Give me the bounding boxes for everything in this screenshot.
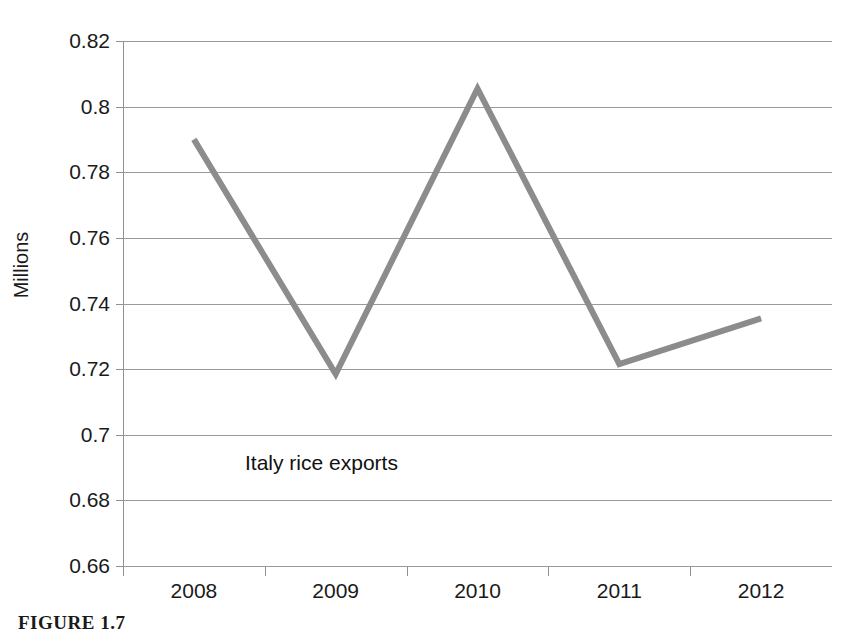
x-axis-tick-label: 2012 [690,580,832,601]
x-axis-tick [123,567,124,576]
gridline [123,566,832,567]
x-axis-tick-label: 2009 [265,580,407,601]
y-axis-title: Millions [11,205,31,325]
y-axis-tick-label: 0.72 [5,358,110,379]
figure-container: 0.820.80.780.760.740.720.70.680.66 20082… [0,0,846,630]
x-axis-tick [265,567,266,576]
x-axis-tick-label: 2008 [123,580,265,601]
data-line-series [123,41,832,566]
series-polyline-italy-rice-exports [194,89,761,374]
x-axis-tick [690,567,691,576]
y-axis-tick-label: 0.66 [5,555,110,576]
y-axis-tick-label: 0.68 [5,489,110,510]
series-annotation-label: Italy rice exports [245,452,398,473]
y-axis-tick-label: 0.7 [5,424,110,445]
plot-area [123,41,832,566]
x-axis-tick-label: 2010 [407,580,549,601]
x-axis-tick [548,567,549,576]
x-axis-tick [407,567,408,576]
y-axis-tick-label: 0.78 [5,161,110,182]
y-axis-tick-label: 0.82 [5,30,110,51]
x-axis-tick-label: 2011 [548,580,690,601]
y-axis-tick-label: 0.8 [5,96,110,117]
figure-caption: FIGURE 1.7 [18,612,125,630]
